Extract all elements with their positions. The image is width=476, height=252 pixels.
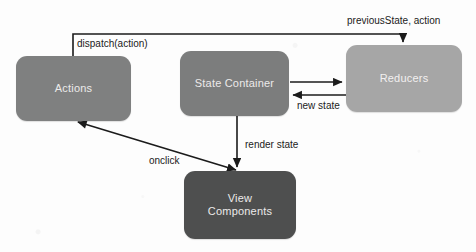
node-view-components-label: View Components [208,192,272,218]
edge-label-render-state: render state [243,139,300,151]
node-reducers-label: Reducers [380,72,429,85]
node-actions-label: Actions [55,82,92,95]
node-state-container-label: State Container [195,77,274,90]
edge-label-previous-state: previousState, action [345,15,442,27]
edge-label-dispatch-action: dispatch(action) [75,38,150,50]
node-view-components[interactable]: View Components [184,171,296,239]
node-actions[interactable]: Actions [16,56,131,121]
node-reducers[interactable]: Reducers [346,45,462,112]
edge-label-onclick: onclick [147,155,182,167]
diagram-canvas: Actions State Container Reducers View Co… [0,0,476,252]
edge-label-new-state: new state [295,100,342,112]
node-state-container[interactable]: State Container [180,51,289,116]
